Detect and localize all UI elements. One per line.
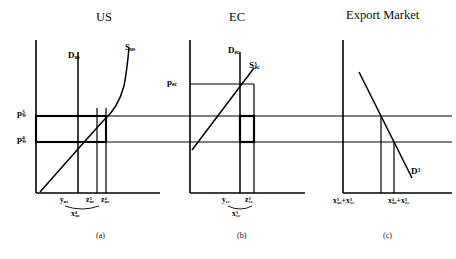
ec-supply-curve [192, 68, 254, 150]
ec-price-label-pec: pec [167, 77, 177, 87]
us-demand-label: Dus [68, 50, 80, 60]
three-panel-economics-diagram [0, 0, 456, 259]
us-brace-label-x4: x4us [71, 209, 80, 218]
us-qty-label-z3: z3us [86, 195, 94, 204]
export-demand-curve [359, 72, 412, 178]
caption-c: (c) [383, 231, 392, 240]
panel-us [36, 40, 160, 209]
us-qty-label-z4: z4us [101, 195, 109, 204]
ec-price-band-rect [240, 116, 254, 142]
export-demand-label: D3 [411, 166, 420, 176]
us-supply-curve [40, 48, 129, 192]
export-qty-label-2: x4us+x3ec [388, 196, 409, 205]
panel-title-ec: EC [229, 10, 245, 25]
price-label-p4w: p4w [17, 134, 26, 144]
us-qty-label-y: yus [60, 195, 68, 204]
ec-supply-label: S3ec [249, 60, 260, 70]
price-label-p3w: p3w [17, 108, 26, 118]
ec-brace-label-x3: x3ec [232, 209, 240, 218]
caption-b: (b) [237, 231, 246, 240]
ec-qty-label-z3: z3ec [245, 195, 253, 204]
ec-qty-label-y: yec [222, 195, 230, 204]
export-qty-label-1: x3us+x3ec [333, 196, 354, 205]
us-supply-label: Sus [125, 42, 135, 52]
world-price-lines [36, 116, 452, 142]
ec-demand-label: Dec [228, 45, 239, 55]
caption-a: (a) [96, 231, 105, 240]
panel-ec [190, 40, 305, 209]
panel-title-us: US [96, 10, 112, 25]
panel-title-export: Export Market [346, 8, 419, 23]
